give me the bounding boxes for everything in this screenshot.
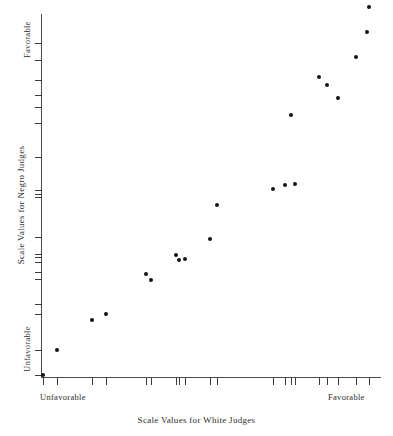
scatter-plot-figure: Scale Values for White Judges Scale Valu… [0,0,393,436]
x-axis-tick [106,378,107,385]
data-point [365,30,369,34]
x-axis-tick [285,378,286,385]
data-point [144,272,148,276]
data-point [41,373,45,377]
x-axis-tick [369,378,370,385]
x-axis-tick [146,378,147,385]
x-axis-low-label: Unfavorable [40,392,86,402]
y-axis-high-label: Favorable [22,21,32,58]
x-axis-tick [356,378,357,385]
x-axis-tick [273,378,274,385]
data-point [336,96,340,100]
x-axis-high-label: Favorable [328,392,365,402]
y-axis-tick [35,43,42,44]
y-axis-tick [35,314,42,315]
y-axis-tick [35,262,42,263]
x-axis-tick [338,378,339,385]
y-axis-tick [35,197,42,198]
plot-area [0,0,393,436]
y-axis-tick [35,190,42,191]
x-axis-tick [327,378,328,385]
x-axis-tick [179,378,180,385]
x-axis-tick [291,378,292,385]
y-axis-tick [35,254,42,255]
x-axis-tick [319,378,320,385]
x-axis-tick [295,378,296,385]
y-axis-tick [35,350,42,351]
y-axis-tick [35,157,42,158]
data-point [90,318,94,322]
data-point [367,5,371,9]
data-point [174,253,178,257]
data-point [283,183,287,187]
y-axis-tick [35,60,42,61]
y-axis-tick [35,194,42,195]
y-axis-tick [35,95,42,96]
y-axis-tick [35,257,42,258]
y-axis-tick [35,272,42,273]
data-point [208,237,212,241]
data-point [149,278,153,282]
y-axis-tick [35,304,42,305]
data-point [183,257,187,261]
y-axis-tick [35,107,42,108]
y-axis-title: Scale Values for Negro Judges [16,115,26,295]
y-axis-low-label: Unfavorable [22,326,32,372]
data-point [271,187,275,191]
data-point [177,258,181,262]
x-axis-tick [217,378,218,385]
data-point [55,348,59,352]
x-axis-tick [185,378,186,385]
y-axis-tick [35,80,42,81]
x-axis-title: Scale Values for White Judges [0,415,393,425]
x-axis-tick [43,378,44,385]
x-axis-tick [151,378,152,385]
y-axis-tick [35,237,42,238]
x-axis-tick [176,378,177,385]
x-axis-tick [92,378,93,385]
data-point [354,55,358,59]
data-point [289,113,293,117]
data-point [325,83,329,87]
x-axis-tick [57,378,58,385]
y-axis-tick [35,279,42,280]
data-point [215,203,219,207]
x-axis-tick [210,378,211,385]
y-axis-tick [35,123,42,124]
data-point [317,75,321,79]
data-point [104,312,108,316]
data-point [293,182,297,186]
